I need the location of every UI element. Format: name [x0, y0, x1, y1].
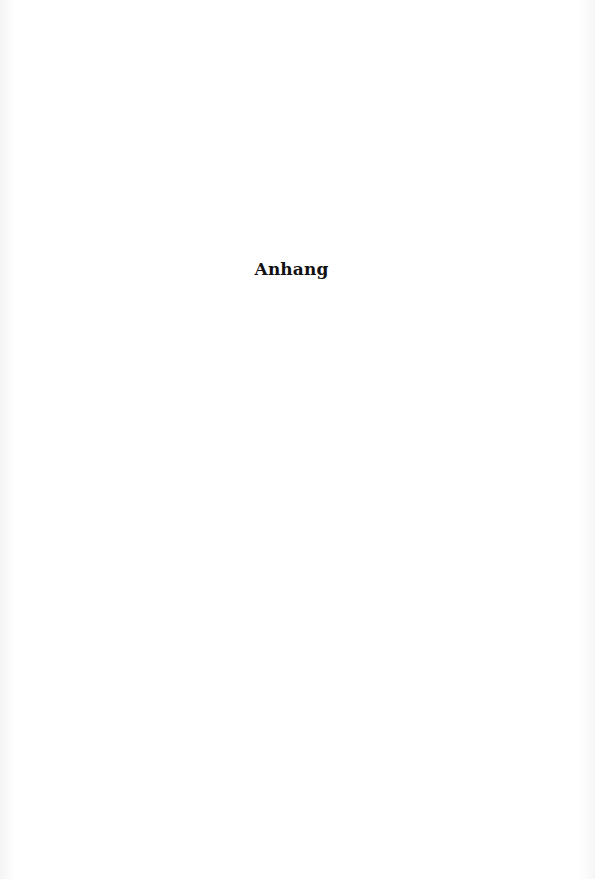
document-page: Anhang: [0, 0, 595, 879]
section-heading: Anhang: [0, 259, 583, 279]
